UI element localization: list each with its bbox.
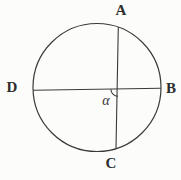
angle-label-alpha: α bbox=[102, 94, 109, 108]
point-label-d: D bbox=[7, 80, 18, 95]
point-label-b: B bbox=[166, 81, 176, 96]
point-label-a: A bbox=[116, 3, 127, 18]
geometry-figure: A B C D α bbox=[0, 0, 181, 180]
chord-db bbox=[33, 88, 161, 90]
point-label-c: C bbox=[106, 156, 117, 171]
diagram-svg bbox=[0, 0, 181, 180]
circle-outline bbox=[33, 24, 161, 152]
chord-ac bbox=[116, 27, 118, 149]
